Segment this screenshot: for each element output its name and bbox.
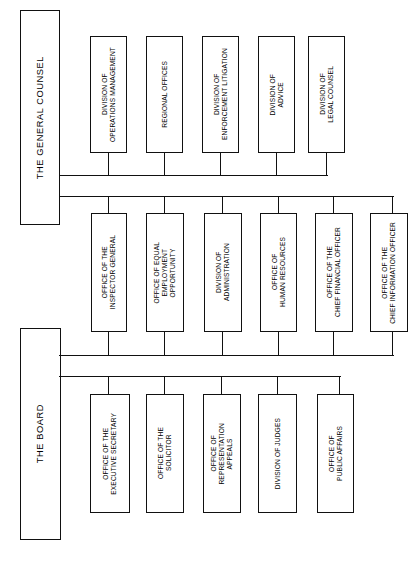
- connector-stem-board-row-1-1: [108, 376, 109, 395]
- node-office-of-public-affairs[interactable]: OFFICE OF PUBLIC AFFAIRS: [317, 394, 354, 513]
- connector-stem-gc-row-2-2: [164, 196, 165, 214]
- connector-stem-gc-row-1-1: [108, 153, 109, 176]
- node-label: REGIONAL OFFICES: [161, 61, 169, 128]
- connector-stem-board-upper-4: [278, 332, 279, 356]
- connector-stem-gc-row-1-4: [276, 153, 277, 176]
- connector-stem-board-row-1-2: [164, 376, 165, 395]
- connector-stem-gc-row-2-3: [222, 196, 223, 214]
- node-label: OFFICE OF THE EXECUTIVE SECRETARY: [102, 413, 118, 495]
- org-chart: THE GENERAL COUNSEL THE BOARD DIVISION O…: [0, 0, 420, 564]
- connector-stem-gc-row-2-1: [108, 196, 109, 214]
- node-office-of-the-chief-information-officer[interactable]: OFFICE OF THE CHIEF INFORMATION OFFICER: [370, 213, 408, 332]
- connector-stem-gc-row-2-5: [333, 196, 334, 214]
- node-label: DIVISION OF ADVICE: [269, 74, 285, 116]
- node-division-of-administration[interactable]: DIVISION OF ADMINISTRATION: [204, 213, 242, 332]
- node-label: DIVISION OF ADMINISTRATION: [215, 243, 231, 301]
- node-division-of-enforcement-litigation[interactable]: DIVISION OF ENFORCEMENT LITIGATION: [202, 36, 239, 153]
- node-label: OFFICE OF EQUAL EMPLOYMENT OPPORTUNITY: [153, 242, 176, 304]
- connector-stem-gc-row-1-2: [164, 153, 165, 176]
- node-division-of-operations-management[interactable]: DIVISION OF OPERATIONS MANAGEMENT: [90, 36, 127, 153]
- node-office-of-the-executive-secretary[interactable]: OFFICE OF THE EXECUTIVE SECRETARY: [90, 394, 130, 513]
- node-label: OFFICE OF THE CHIEF FINANCIAL OFFICER: [326, 227, 342, 317]
- node-office-of-the-solicitor[interactable]: OFFICE OF THE SOLICITOR: [146, 394, 184, 513]
- node-division-of-advice[interactable]: DIVISION OF ADVICE: [258, 36, 295, 153]
- node-label: OFFICE OF THE INSPECTOR GENERAL: [101, 235, 117, 309]
- connector-stem-gc-row-1-5: [326, 153, 327, 176]
- node-label: DIVISION OF ENFORCEMENT LITIGATION: [213, 48, 229, 140]
- connector-stem-board-upper-3: [222, 332, 223, 356]
- node-office-of-human-resources[interactable]: OFFICE OF HUMAN RESOURCES: [260, 213, 297, 332]
- node-label: DIVISION OF OPERATIONS MANAGEMENT: [101, 47, 117, 142]
- node-office-of-representation-appeals[interactable]: OFFICE OF REPRESENTATION APPEALS: [203, 394, 241, 513]
- node-the-board[interactable]: THE BOARD: [20, 328, 61, 540]
- connector-stem-board-row-1-4: [277, 376, 278, 395]
- node-label: DIVISION OF LEGAL COUNSEL: [319, 66, 335, 123]
- node-label: DIVISION OF JUDGES: [274, 418, 282, 489]
- connector-stem-board-upper-1: [108, 332, 109, 356]
- node-office-of-the-chief-financial-officer[interactable]: OFFICE OF THE CHIEF FINANCIAL OFFICER: [315, 213, 353, 332]
- connector-stem-board-upper-6: [392, 332, 393, 356]
- node-office-of-the-inspector-general[interactable]: OFFICE OF THE INSPECTOR GENERAL: [91, 213, 127, 332]
- connector-trunk-gc-row-1: [59, 175, 328, 176]
- node-label: OFFICE OF REPRESENTATION APPEALS: [210, 423, 233, 485]
- node-the-general-counsel[interactable]: THE GENERAL COUNSEL: [20, 10, 60, 225]
- connector-stem-gc-row-2-6: [392, 196, 393, 214]
- connector-stem-gc-row-1-3: [220, 153, 221, 176]
- connector-stem-board-upper-5: [333, 332, 334, 356]
- node-label: OFFICE OF THE SOLICITOR: [157, 427, 173, 479]
- connector-trunk-board-row-1: [59, 376, 341, 377]
- node-label: THE BOARD: [35, 404, 46, 463]
- node-division-of-legal-counsel[interactable]: DIVISION OF LEGAL COUNSEL: [308, 36, 345, 153]
- connector-stem-board-row-1-5: [339, 376, 340, 395]
- connector-stem-gc-row-2-4: [278, 196, 279, 214]
- node-office-of-equal-employment-opportunity[interactable]: OFFICE OF EQUAL EMPLOYMENT OPPORTUNITY: [146, 213, 184, 332]
- node-label: OFFICE OF PUBLIC AFFAIRS: [328, 426, 344, 481]
- connector-stem-board-upper-2: [164, 332, 165, 356]
- node-label: OFFICE OF HUMAN RESOURCES: [271, 237, 287, 307]
- node-label: OFFICE OF THE CHIEF INFORMATION OFFICER: [381, 222, 397, 324]
- node-regional-offices[interactable]: REGIONAL OFFICES: [146, 36, 183, 153]
- node-division-of-judges[interactable]: DIVISION OF JUDGES: [258, 394, 297, 513]
- connector-stem-board-row-1-3: [221, 376, 222, 395]
- node-label: THE GENERAL COUNSEL: [35, 56, 46, 179]
